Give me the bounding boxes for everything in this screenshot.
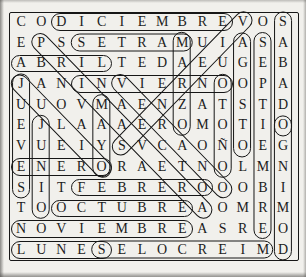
word-oval-diciembre bbox=[51, 13, 233, 31]
word-oval-junio bbox=[32, 115, 50, 219]
word-oval-octubre bbox=[51, 200, 193, 218]
word-circles-layer bbox=[0, 0, 306, 277]
word-oval-miercoles bbox=[91, 241, 273, 259]
word-oval-domingo bbox=[274, 115, 292, 260]
word-oval-septiembre bbox=[254, 32, 272, 239]
word-oval-agosto bbox=[234, 32, 252, 157]
word-oval-otono bbox=[214, 74, 232, 178]
word-search-puzzle-scan: CODICIEMBREVOSEPSSETRAMUIASAABRILTEDAEUG… bbox=[0, 0, 306, 277]
word-oval-noviembre bbox=[11, 220, 193, 238]
